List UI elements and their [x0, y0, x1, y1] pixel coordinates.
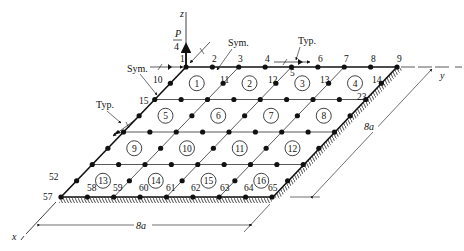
- node: [137, 113, 142, 118]
- node: [242, 113, 247, 118]
- load-numerator: P: [174, 28, 181, 39]
- element-label: 14: [148, 173, 163, 188]
- node-label: 11: [220, 75, 229, 85]
- node-label: 62: [191, 183, 201, 193]
- dimension-bottom-label: 8a: [136, 220, 146, 231]
- node: [195, 162, 200, 167]
- node: [295, 113, 300, 118]
- typ-top-label: Typ.: [298, 35, 316, 46]
- node-label: 10: [153, 75, 163, 85]
- node: [236, 64, 241, 69]
- node: [248, 162, 253, 167]
- node-label: 63: [220, 183, 230, 193]
- node-label: 9: [397, 54, 402, 64]
- node: [285, 178, 290, 183]
- node: [243, 194, 248, 199]
- node: [217, 194, 222, 199]
- node: [332, 129, 337, 134]
- node: [258, 97, 263, 102]
- node: [127, 178, 132, 183]
- element-label: 16: [254, 173, 269, 188]
- node: [253, 129, 258, 134]
- x-axis: x: [11, 202, 56, 242]
- node: [138, 194, 143, 199]
- svg-text:1: 1: [194, 79, 199, 89]
- svg-text:2: 2: [247, 79, 252, 89]
- node-label: 52: [49, 172, 59, 182]
- node-label: 2: [212, 54, 217, 64]
- element-label: 2: [242, 76, 257, 91]
- sym-top-label: Sym.: [228, 37, 249, 48]
- node: [226, 129, 231, 134]
- element-label: 4: [348, 76, 363, 91]
- node-label: 12: [268, 75, 278, 85]
- node-label: 6: [318, 54, 323, 64]
- node: [394, 64, 399, 69]
- node: [85, 194, 90, 199]
- node: [105, 146, 110, 151]
- node-label: 64: [244, 183, 254, 193]
- node: [315, 64, 320, 69]
- node-label: 58: [87, 183, 97, 193]
- node: [158, 146, 163, 151]
- node: [116, 162, 121, 167]
- node-label: 4: [265, 54, 270, 64]
- dimension-bottom: 8a: [40, 204, 270, 232]
- node: [180, 178, 185, 183]
- element-label: 12: [285, 141, 300, 156]
- node-label: 8: [371, 54, 376, 64]
- x-axis-label: x: [11, 231, 17, 242]
- node: [190, 194, 195, 199]
- node-label: 61: [166, 183, 176, 193]
- node: [263, 64, 268, 69]
- sym-left-label: Sym.: [127, 63, 148, 74]
- node: [169, 162, 174, 167]
- svg-text:14: 14: [151, 176, 161, 186]
- node: [301, 162, 306, 167]
- node: [210, 64, 215, 69]
- element-label: 9: [127, 141, 142, 156]
- node: [274, 162, 279, 167]
- node: [279, 129, 284, 134]
- node-label: 14: [372, 75, 382, 85]
- element-label: 5: [158, 108, 173, 123]
- node: [337, 97, 342, 102]
- node: [306, 129, 311, 134]
- node: [264, 146, 269, 151]
- node-label: 15: [139, 96, 149, 106]
- typical-annotation-top: Typ.: [274, 35, 316, 65]
- node: [348, 113, 353, 118]
- node: [179, 97, 184, 102]
- dimension-right-label: 8a: [364, 121, 374, 132]
- svg-text:9: 9: [132, 144, 137, 154]
- node-label: 23: [357, 92, 367, 102]
- node: [211, 146, 216, 151]
- node-label: 13: [320, 75, 330, 85]
- node: [111, 194, 116, 199]
- typical-annotation-left: Typ.: [96, 99, 135, 136]
- node: [74, 178, 79, 183]
- plate-finite-element-diagram: 12345678910111213141516 1234567891011121…: [0, 0, 464, 251]
- element-label: 8: [316, 108, 331, 123]
- node: [152, 97, 157, 102]
- node: [147, 129, 152, 134]
- element-label: 10: [180, 141, 195, 156]
- element-label: 3: [295, 76, 310, 91]
- element-label: 7: [264, 108, 279, 123]
- svg-text:12: 12: [288, 144, 298, 154]
- svg-text:13: 13: [98, 176, 108, 186]
- svg-text:15: 15: [204, 176, 214, 186]
- node: [142, 162, 147, 167]
- node: [58, 194, 63, 199]
- svg-text:8: 8: [321, 111, 326, 121]
- element-label: 13: [96, 173, 111, 188]
- node: [269, 194, 274, 199]
- node: [222, 162, 227, 167]
- element-label: 6: [211, 108, 226, 123]
- node: [164, 194, 169, 199]
- load-denominator: 4: [174, 41, 179, 52]
- node: [189, 113, 194, 118]
- node: [316, 146, 321, 151]
- node: [310, 97, 315, 102]
- svg-text:5: 5: [163, 111, 168, 121]
